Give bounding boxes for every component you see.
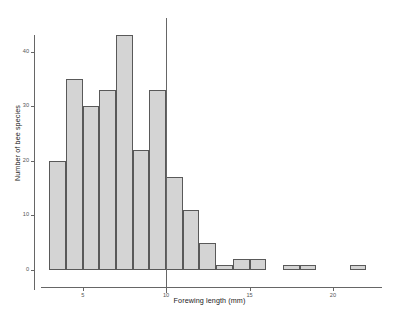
x-axis-tick-mark xyxy=(250,288,251,291)
histogram-bar xyxy=(199,243,216,270)
histogram-bar xyxy=(49,161,66,270)
x-axis-tick-mark xyxy=(83,288,84,291)
histogram-bar xyxy=(66,79,83,270)
histogram-bar xyxy=(116,35,133,270)
y-axis-tick-mark xyxy=(31,52,34,53)
y-axis-tick-label: 40 xyxy=(23,49,29,55)
histogram-bar xyxy=(183,210,200,270)
y-axis-tick-mark xyxy=(31,215,34,216)
histogram-bar xyxy=(83,106,100,270)
x-axis-tick-mark xyxy=(333,288,334,291)
y-axis-tick-mark xyxy=(31,161,34,162)
reference-line xyxy=(166,18,167,293)
y-axis-title: Number of bee species xyxy=(10,0,24,300)
histogram-bar xyxy=(283,265,300,270)
histogram-figure: Number of bee species 0102030405101520 F… xyxy=(0,0,397,314)
y-axis-tick-label: 10 xyxy=(23,212,29,218)
y-axis-tick-label: 20 xyxy=(23,158,29,164)
y-axis-tick-mark xyxy=(31,106,34,107)
histogram-bar xyxy=(133,150,150,270)
histogram-bar xyxy=(233,259,250,270)
histogram-bar xyxy=(250,259,267,270)
histogram-bar xyxy=(300,265,317,270)
y-axis-title-container: Number of bee species xyxy=(8,0,22,300)
y-axis-tick-label: 0 xyxy=(26,267,29,273)
y-axis-tick-mark xyxy=(31,270,34,271)
x-axis-line xyxy=(41,287,382,288)
histogram-bar xyxy=(149,90,166,270)
histogram-bar xyxy=(166,177,183,270)
x-axis-title: Forewing length (mm) xyxy=(41,296,378,305)
histogram-bar xyxy=(216,265,233,270)
histogram-bar xyxy=(350,265,367,270)
y-axis-line xyxy=(34,35,35,290)
y-axis-tick-label: 30 xyxy=(23,103,29,109)
histogram-bar xyxy=(99,90,116,270)
